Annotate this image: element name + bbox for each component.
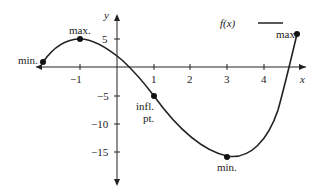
svg-text:5: 5	[102, 33, 108, 45]
svg-text:2: 2	[187, 73, 193, 85]
plot: f(x) y x −1 1 2 3 4 5 −5 −10 −15 min. ma…	[0, 0, 326, 186]
svg-text:min.: min.	[217, 161, 237, 173]
svg-text:−1: −1	[70, 73, 82, 85]
svg-text:x: x	[299, 73, 305, 85]
svg-text:max.: max.	[69, 24, 91, 36]
svg-text:min.: min.	[18, 54, 38, 66]
svg-text:y: y	[103, 9, 109, 21]
chart: f(x) y x −1 1 2 3 4 5 −5 −10 −15 min. ma…	[0, 0, 326, 186]
svg-text:3: 3	[224, 73, 230, 85]
svg-text:f(x): f(x)	[220, 17, 236, 30]
svg-text:infl.: infl.	[136, 100, 154, 112]
svg-text:max.: max.	[276, 28, 298, 40]
svg-text:−10: −10	[91, 118, 109, 130]
curve-f	[43, 34, 297, 157]
svg-text:1: 1	[151, 73, 157, 85]
svg-text:pt.: pt.	[143, 112, 155, 124]
svg-text:−5: −5	[97, 90, 109, 102]
svg-text:4: 4	[261, 73, 267, 85]
svg-text:−15: −15	[91, 146, 109, 158]
